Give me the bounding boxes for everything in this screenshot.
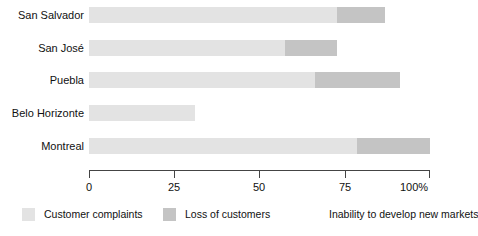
axis-tick [345,170,346,178]
table-row: San José [0,39,466,57]
legend-item-customer-complaints: Customer complaints [22,204,143,224]
chart-legend: Customer complaints Loss of customers In… [0,204,466,228]
category-label-montreal: Montreal [0,140,89,153]
legend-swatch-icon [307,208,320,221]
table-row: Puebla [0,71,466,89]
legend-label: Loss of customers [185,208,270,221]
category-label-san-salvador: San Salvador [0,9,89,22]
legend-item-inability-new-markets: Inability to develop new markets [307,204,478,224]
axis-tick [89,170,90,178]
axis-tick [174,170,175,178]
axis-tick-label-50: 50 [253,181,265,194]
legend-swatch-icon [163,208,176,221]
x-axis [89,170,430,180]
bar-segment-loss-of-customers [337,7,385,23]
axis-tick-label-75: 75 [339,181,351,194]
axis-tick-label-25: 25 [168,181,180,194]
bar-track-puebla [89,72,400,88]
bar-segment-customer-complaints [89,40,285,56]
legend-swatch-icon [22,208,35,221]
bar-track-san-salvador [89,7,385,23]
bar-segment-customer-complaints [89,7,337,23]
axis-tick-label-100: 100% [400,181,428,194]
axis-tick-label-0: 0 [86,181,92,194]
category-label-puebla: Puebla [0,74,89,87]
bar-segment-customer-complaints [89,72,315,88]
table-row: Montreal [0,137,466,155]
bar-segment-loss-of-customers [357,138,430,154]
legend-label: Inability to develop new markets [329,208,478,221]
bar-track-san-jose [89,40,337,56]
bar-track-montreal [89,138,430,154]
category-label-belo-horizonte: Belo Horizonte [0,107,89,120]
bar-segment-loss-of-customers [315,72,400,88]
category-label-san-jose: San José [0,42,89,55]
legend-item-loss-of-customers: Loss of customers [163,204,270,224]
table-row: San Salvador [0,6,466,24]
bar-segment-customer-complaints [89,138,357,154]
axis-tick [259,170,260,178]
axis-tick [429,170,430,178]
bar-segment-customer-complaints [89,105,195,121]
legend-label: Customer complaints [44,208,143,221]
bar-segment-loss-of-customers [285,40,337,56]
table-row: Belo Horizonte [0,104,466,122]
bar-track-belo-horizonte [89,105,195,121]
